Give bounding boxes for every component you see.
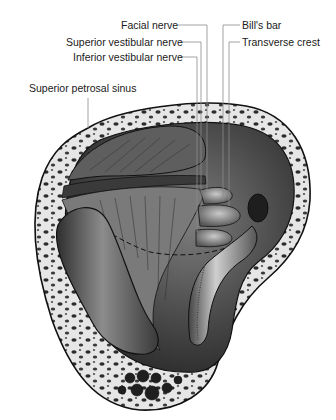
- label-inferior-vestibular-nerve: Inferior vestibular nerve: [73, 51, 183, 63]
- label-superior-vestibular-nerve: Superior vestibular nerve: [66, 36, 183, 48]
- label-bills-bar: Bill's bar: [242, 19, 281, 31]
- singular-foramen: [248, 194, 268, 222]
- inferior-nerve-stump: [196, 229, 232, 246]
- facial-nerve-stump: [200, 187, 232, 204]
- vestibular-nerve-stump: [198, 205, 240, 227]
- label-superior-petrosal-sinus: Superior petrosal sinus: [29, 82, 136, 94]
- label-facial-nerve: Facial nerve: [121, 19, 178, 31]
- anatomical-illustration: [0, 0, 336, 420]
- label-transverse-crest: Transverse crest: [242, 36, 320, 48]
